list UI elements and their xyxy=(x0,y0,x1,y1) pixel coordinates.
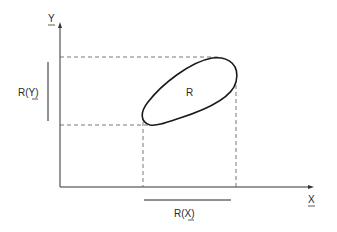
y-axis-label: Y xyxy=(48,13,55,24)
x-axis-arrow-icon xyxy=(308,185,314,189)
range-y-label: R(Y) xyxy=(18,87,39,98)
range-diagram: Y X R R(Y) R(X) xyxy=(0,0,337,232)
x-axis-label: X xyxy=(308,194,315,205)
range-x-label: R(X) xyxy=(174,208,195,219)
region-r-label: R xyxy=(186,87,193,98)
y-axis-arrow-icon xyxy=(58,22,62,28)
